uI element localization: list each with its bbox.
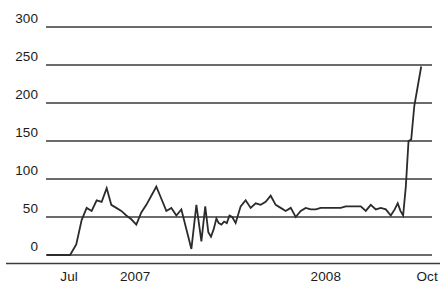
y-tick-200: 200 [4, 88, 38, 102]
x-tick-2008: 2008 [311, 270, 341, 284]
y-tick-100: 100 [4, 164, 38, 178]
line-chart: 300250200150100500 Jul20072008Oct [0, 0, 444, 296]
y-tick-0: 0 [4, 240, 38, 254]
gridlines [46, 27, 432, 255]
x-tick-jul: Jul [60, 270, 78, 284]
y-tick-50: 50 [4, 202, 38, 216]
y-tick-300: 300 [4, 12, 38, 26]
x-tick-2007: 2007 [120, 270, 150, 284]
chart-plot-area [0, 0, 444, 296]
y-tick-150: 150 [4, 126, 38, 140]
y-tick-250: 250 [4, 50, 38, 64]
data-line-series-1 [47, 67, 421, 255]
x-tick-oct: Oct [416, 270, 437, 284]
data-series-group [47, 67, 421, 255]
